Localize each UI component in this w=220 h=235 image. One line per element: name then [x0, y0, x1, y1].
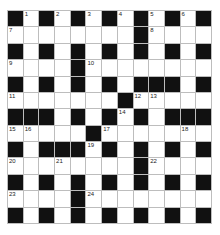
answer-cell[interactable]	[196, 158, 212, 174]
answer-cell[interactable]	[165, 27, 181, 43]
answer-cell[interactable]	[181, 175, 197, 191]
answer-cell[interactable]	[196, 191, 212, 207]
answer-cell[interactable]	[24, 27, 40, 43]
answer-cell[interactable]	[118, 77, 134, 93]
answer-cell[interactable]: 9	[8, 60, 24, 76]
answer-cell[interactable]	[149, 142, 165, 158]
answer-cell[interactable]	[102, 60, 118, 76]
answer-cell[interactable]	[149, 126, 165, 142]
answer-cell[interactable]: 6	[181, 11, 197, 27]
answer-cell[interactable]: 1	[24, 11, 40, 27]
answer-cell[interactable]: 15	[8, 126, 24, 142]
answer-cell[interactable]: 7	[8, 27, 24, 43]
answer-cell[interactable]	[149, 109, 165, 125]
answer-cell[interactable]: 17	[102, 126, 118, 142]
answer-cell[interactable]	[134, 126, 150, 142]
answer-cell[interactable]	[102, 158, 118, 174]
answer-cell[interactable]: 20	[8, 158, 24, 174]
answer-cell[interactable]: 21	[55, 158, 71, 174]
answer-cell[interactable]	[118, 60, 134, 76]
answer-cell[interactable]	[102, 27, 118, 43]
answer-cell[interactable]	[149, 60, 165, 76]
answer-cell[interactable]	[118, 191, 134, 207]
answer-cell[interactable]: 13	[149, 93, 165, 109]
answer-cell[interactable]: 11	[8, 93, 24, 109]
answer-cell[interactable]	[86, 109, 102, 125]
answer-cell[interactable]	[24, 60, 40, 76]
answer-cell[interactable]	[55, 191, 71, 207]
answer-cell[interactable]	[196, 27, 212, 43]
answer-cell[interactable]: 19	[86, 142, 102, 158]
answer-cell[interactable]	[118, 208, 134, 224]
answer-cell[interactable]	[102, 191, 118, 207]
answer-cell[interactable]	[24, 93, 40, 109]
answer-cell[interactable]	[196, 126, 212, 142]
answer-cell[interactable]	[134, 191, 150, 207]
answer-cell[interactable]	[71, 158, 87, 174]
answer-cell[interactable]	[86, 44, 102, 60]
answer-cell[interactable]	[55, 44, 71, 60]
answer-cell[interactable]	[165, 126, 181, 142]
answer-cell[interactable]	[118, 158, 134, 174]
answer-cell[interactable]	[24, 142, 40, 158]
answer-cell[interactable]	[39, 158, 55, 174]
answer-cell[interactable]	[86, 175, 102, 191]
answer-cell[interactable]	[71, 93, 87, 109]
answer-cell[interactable]	[24, 44, 40, 60]
answer-cell[interactable]	[165, 60, 181, 76]
answer-cell[interactable]: 10	[86, 60, 102, 76]
answer-cell[interactable]	[181, 60, 197, 76]
answer-cell[interactable]	[181, 142, 197, 158]
answer-cell[interactable]	[149, 175, 165, 191]
answer-cell[interactable]: 23	[8, 191, 24, 207]
answer-cell[interactable]	[134, 60, 150, 76]
answer-cell[interactable]	[24, 191, 40, 207]
answer-cell[interactable]	[55, 126, 71, 142]
answer-cell[interactable]	[39, 93, 55, 109]
answer-cell[interactable]	[181, 44, 197, 60]
answer-cell[interactable]	[86, 93, 102, 109]
answer-cell[interactable]	[39, 126, 55, 142]
answer-cell[interactable]	[118, 175, 134, 191]
answer-cell[interactable]	[149, 44, 165, 60]
answer-cell[interactable]	[55, 93, 71, 109]
answer-cell[interactable]	[55, 175, 71, 191]
answer-cell[interactable]	[71, 27, 87, 43]
answer-cell[interactable]: 14	[118, 109, 134, 125]
answer-cell[interactable]	[39, 60, 55, 76]
answer-cell[interactable]	[24, 208, 40, 224]
answer-cell[interactable]	[55, 60, 71, 76]
answer-cell[interactable]	[149, 191, 165, 207]
answer-cell[interactable]: 5	[149, 11, 165, 27]
answer-cell[interactable]	[149, 208, 165, 224]
answer-cell[interactable]	[196, 93, 212, 109]
answer-cell[interactable]	[55, 27, 71, 43]
answer-cell[interactable]	[24, 158, 40, 174]
answer-cell[interactable]	[118, 44, 134, 60]
answer-cell[interactable]	[181, 191, 197, 207]
answer-cell[interactable]	[55, 208, 71, 224]
answer-cell[interactable]	[181, 158, 197, 174]
answer-cell[interactable]	[86, 158, 102, 174]
answer-cell[interactable]	[165, 158, 181, 174]
answer-cell[interactable]	[71, 126, 87, 142]
answer-cell[interactable]: 8	[149, 27, 165, 43]
answer-cell[interactable]	[86, 208, 102, 224]
answer-cell[interactable]: 2	[55, 11, 71, 27]
answer-cell[interactable]	[118, 126, 134, 142]
answer-cell[interactable]	[165, 93, 181, 109]
answer-cell[interactable]	[39, 191, 55, 207]
answer-cell[interactable]	[165, 191, 181, 207]
answer-cell[interactable]: 18	[181, 126, 197, 142]
answer-cell[interactable]	[102, 93, 118, 109]
answer-cell[interactable]	[118, 142, 134, 158]
answer-cell[interactable]	[86, 27, 102, 43]
answer-cell[interactable]: 24	[86, 191, 102, 207]
answer-cell[interactable]	[181, 27, 197, 43]
answer-cell[interactable]: 3	[86, 11, 102, 27]
answer-cell[interactable]	[181, 77, 197, 93]
answer-cell[interactable]: 22	[149, 158, 165, 174]
answer-cell[interactable]	[24, 175, 40, 191]
answer-cell[interactable]	[196, 60, 212, 76]
answer-cell[interactable]	[181, 93, 197, 109]
